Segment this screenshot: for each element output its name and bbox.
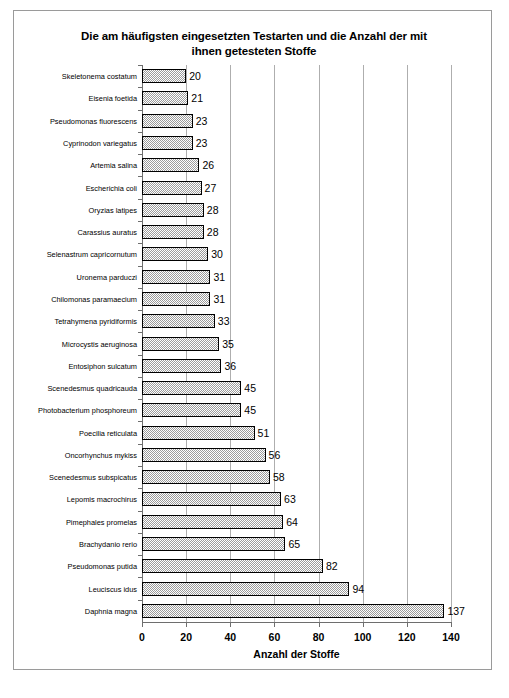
bar-value-label: 45 — [244, 404, 256, 416]
y-tick — [138, 176, 143, 177]
bar-row: Oryzias latipes28 — [142, 203, 451, 217]
chart-title-line-1: Die am häufigsten eingesetzten Testarten… — [81, 30, 427, 42]
bar-row: Eisenia foetida21 — [142, 91, 451, 105]
y-tick — [138, 466, 143, 467]
x-tick-label-140: 140 — [442, 631, 460, 643]
category-label: Artemia salina — [90, 161, 137, 170]
bar[interactable] — [142, 136, 193, 150]
bar-value-label: 58 — [273, 471, 285, 483]
bar[interactable] — [142, 559, 323, 573]
x-tick-60 — [274, 622, 275, 627]
bar-value-label: 82 — [326, 560, 338, 572]
category-label: Selenastrum capricornutum — [47, 250, 137, 259]
bar-row: Pseudomonas fluorescens23 — [142, 114, 451, 128]
bar[interactable] — [142, 114, 193, 128]
bar-value-label: 35 — [222, 338, 234, 350]
x-tick-80 — [319, 622, 320, 627]
bar[interactable] — [142, 515, 283, 529]
bar[interactable] — [142, 181, 202, 195]
category-label: Carassius auratus — [77, 228, 137, 237]
bar[interactable] — [142, 270, 210, 284]
bar[interactable] — [142, 91, 188, 105]
category-label: Poecilia reticulata — [79, 428, 137, 437]
y-tick — [138, 332, 143, 333]
bar-row: Oncorhynchus mykiss56 — [142, 448, 451, 462]
y-tick — [138, 87, 143, 88]
x-tick-120 — [407, 622, 408, 627]
bar-row: Cyprinodon variegatus23 — [142, 136, 451, 150]
x-tick-140 — [451, 622, 452, 627]
category-label: Daphnia magna — [85, 606, 137, 615]
bar-value-label: 30 — [211, 248, 223, 260]
bar[interactable] — [142, 247, 208, 261]
bar[interactable] — [142, 359, 221, 373]
bar-value-label: 65 — [288, 538, 300, 550]
chart-title-line-2: ihnen getesteten Stoffe — [192, 45, 317, 57]
y-tick — [138, 154, 143, 155]
category-label: Chilomonas paramaecium — [51, 294, 137, 303]
bar-value-label: 20 — [189, 70, 201, 82]
bar[interactable] — [142, 492, 281, 506]
bar[interactable] — [142, 582, 349, 596]
bar[interactable] — [142, 426, 255, 440]
category-label: Pimephales promelas — [66, 517, 137, 526]
category-label: Skeletonema costatum — [62, 72, 137, 81]
category-label: Entosiphon sulcatum — [68, 361, 137, 370]
bar-row: Artemia salina26 — [142, 158, 451, 172]
plot-area: 020406080100120140 Skeletonema costatum2… — [142, 65, 451, 622]
bar[interactable] — [142, 314, 215, 328]
category-label: Scenedesmus subspicatus — [49, 473, 137, 482]
gridline-140 — [451, 65, 452, 622]
category-label: Pseudomonas fluorescens — [50, 116, 137, 125]
bar-value-label: 56 — [269, 449, 281, 461]
y-tick — [138, 221, 143, 222]
y-tick — [138, 310, 143, 311]
x-tick-label-80: 80 — [313, 631, 325, 643]
y-tick — [138, 288, 143, 289]
bar[interactable] — [142, 381, 241, 395]
bar-row: Uronema parduczi31 — [142, 270, 451, 284]
x-tick-label-40: 40 — [224, 631, 236, 643]
bar-row: Pimephales promelas64 — [142, 515, 451, 529]
bar-row: Daphnia magna137 — [142, 604, 451, 618]
x-tick-20 — [186, 622, 187, 627]
x-tick-label-120: 120 — [398, 631, 416, 643]
bar[interactable] — [142, 69, 186, 83]
bar-value-label: 94 — [352, 583, 364, 595]
bar-value-label: 64 — [286, 516, 298, 528]
bar[interactable] — [142, 292, 210, 306]
bar[interactable] — [142, 403, 241, 417]
bar[interactable] — [142, 470, 270, 484]
bar-row: Tetrahymena pyridiformis33 — [142, 314, 451, 328]
bar-value-label: 27 — [205, 182, 217, 194]
y-tick — [138, 266, 143, 267]
category-label: Photobacterium phosphoreum — [38, 406, 137, 415]
bar[interactable] — [142, 225, 204, 239]
bar-row: Photobacterium phosphoreum45 — [142, 403, 451, 417]
bar-value-label: 137 — [447, 605, 465, 617]
category-label: Microcystis aeruginosa — [62, 339, 137, 348]
bar[interactable] — [142, 158, 199, 172]
y-tick — [138, 511, 143, 512]
bar-value-label: 51 — [258, 427, 270, 439]
category-label: Cyprinodon variegatus — [63, 138, 137, 147]
y-tick — [138, 65, 143, 66]
bar[interactable] — [142, 337, 219, 351]
category-label: Lepomis macrochirus — [67, 495, 137, 504]
bar[interactable] — [142, 448, 266, 462]
x-tick-label-100: 100 — [354, 631, 372, 643]
bar-row: Skeletonema costatum20 — [142, 69, 451, 83]
y-tick — [138, 355, 143, 356]
y-tick — [138, 199, 143, 200]
bar-value-label: 23 — [196, 115, 208, 127]
bar[interactable] — [142, 203, 204, 217]
bar[interactable] — [142, 604, 444, 618]
y-tick — [138, 444, 143, 445]
bar-value-label: 45 — [244, 382, 256, 394]
x-tick-0 — [142, 622, 143, 627]
x-tick-label-20: 20 — [180, 631, 192, 643]
bar[interactable] — [142, 537, 285, 551]
bar-row: Scenedesmus subspicatus58 — [142, 470, 451, 484]
bar-row: Pseudomonas putida82 — [142, 559, 451, 573]
bar-row: Chilomonas paramaecium31 — [142, 292, 451, 306]
